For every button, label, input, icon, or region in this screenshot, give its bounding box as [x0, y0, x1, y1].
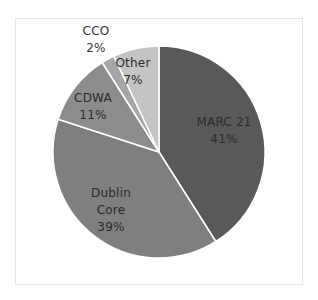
- label-cco: CCO 2%: [83, 23, 110, 57]
- label-marc21: MARC 21 41%: [196, 114, 251, 148]
- label-marc21-name: MARC 21: [196, 114, 251, 131]
- label-marc21-pct: 41%: [196, 131, 251, 148]
- label-dublin-core-pct: 39%: [91, 219, 131, 236]
- label-cco-name: CCO: [83, 23, 110, 40]
- label-dublin-core-name-1: Dublin: [91, 185, 131, 202]
- label-other-pct: 7%: [115, 72, 150, 89]
- label-cdwa-pct: 11%: [74, 107, 112, 124]
- label-dublin-core-name-2: Core: [91, 202, 131, 219]
- label-other-name: Other: [115, 55, 150, 72]
- label-other: Other 7%: [115, 55, 150, 89]
- pie-chart: [0, 0, 318, 300]
- label-cdwa-name: CDWA: [74, 90, 112, 107]
- label-cdwa: CDWA 11%: [74, 90, 112, 124]
- label-dublin-core: Dublin Core 39%: [91, 185, 131, 236]
- label-cco-pct: 2%: [83, 40, 110, 57]
